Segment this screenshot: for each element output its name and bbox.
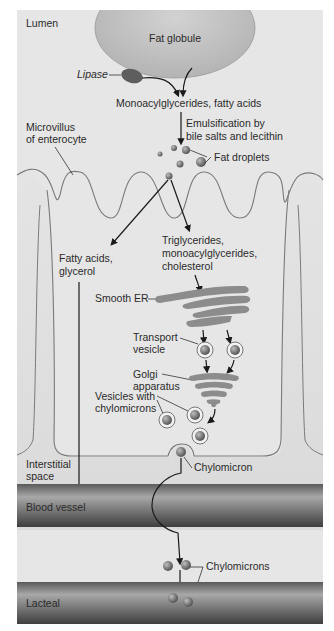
chylomicrons-label: Chylomicrons bbox=[206, 560, 270, 572]
transport-vesicle-label-1: Transport bbox=[133, 331, 178, 343]
chylomicron-particle-2 bbox=[181, 560, 191, 570]
microvillus-label-1: Microvillus bbox=[26, 121, 75, 133]
transport-vesicle-right bbox=[227, 342, 243, 358]
fat-droplets-label: Fat droplets bbox=[214, 151, 269, 163]
golgi-label-1: Golgi bbox=[133, 368, 158, 380]
transport-vesicle-label-2: vesicle bbox=[133, 343, 165, 355]
transport-vesicle-left bbox=[197, 342, 213, 358]
fat-absorption-diagram: Fat globule Lumen Lipase Monoacylglyceri… bbox=[0, 0, 334, 631]
blood-vessel-label: Blood vessel bbox=[26, 501, 86, 513]
chylomicron-vesicle-1 bbox=[159, 412, 175, 428]
interstitial-label-1: Interstitial bbox=[26, 458, 71, 470]
chylomicron-vesicle-3 bbox=[192, 428, 208, 444]
lipids-label-1: Triglycerides, bbox=[162, 234, 224, 246]
products-label: Monoacylglycerides, fatty acids bbox=[116, 97, 261, 109]
chylomicron-particle-1 bbox=[163, 561, 173, 571]
fat-globule-label: Fat globule bbox=[149, 32, 201, 44]
emulsification-label-2: bile salts and lecithin bbox=[186, 130, 283, 142]
lacteal-label: Lacteal bbox=[26, 597, 60, 609]
interstitial-label-2: space bbox=[26, 470, 54, 482]
lipids-label-3: cholesterol bbox=[162, 260, 213, 272]
vesicles-label-2: chylomicrons bbox=[95, 402, 156, 414]
chylomicron-particle-4 bbox=[183, 597, 193, 607]
lacteal bbox=[17, 582, 323, 624]
vesicles-label-1: Vesicles with bbox=[95, 390, 155, 402]
chylomicron-vesicle-2 bbox=[187, 407, 203, 423]
emulsification-label-1: Emulsification by bbox=[186, 117, 266, 129]
fatty-acids-label-1: Fatty acids, bbox=[59, 252, 113, 264]
lipase-label: Lipase bbox=[77, 68, 108, 80]
lipids-label-2: monoacylglycerides, bbox=[162, 247, 257, 259]
microvillus-label-2: of enterocyte bbox=[26, 133, 87, 145]
fatty-acids-label-2: glycerol bbox=[59, 265, 95, 277]
smooth-er-label: Smooth ER bbox=[95, 292, 149, 304]
exocytosed-chylomicron bbox=[176, 447, 186, 457]
chylomicron-particle-3 bbox=[168, 593, 178, 603]
lumen-label: Lumen bbox=[26, 17, 58, 29]
chylomicron-label: Chylomicron bbox=[194, 461, 253, 473]
